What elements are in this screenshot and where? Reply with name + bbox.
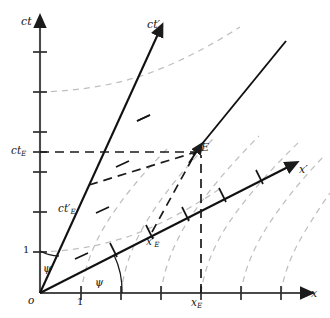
hyperbola-spacelike-s6 xyxy=(281,193,330,293)
ct_prime_E-projection-line xyxy=(89,152,196,185)
hyperbola-spacelike-s5 xyxy=(241,156,324,293)
x-prime-axis-line xyxy=(40,167,288,293)
ct-E-subscript: E xyxy=(21,149,26,158)
x-E-subscript: E xyxy=(197,301,202,310)
ct-prime-tick-1 xyxy=(75,253,88,259)
ct-axis-label: ct xyxy=(21,16,32,27)
ct-prime-axis-label: ct′ xyxy=(147,19,160,30)
x-prime-E-label: x′E xyxy=(146,236,160,248)
hyperbola-spacelike-s3 xyxy=(161,136,259,293)
x-unit-1-label: 1 xyxy=(77,297,83,307)
minkowski-diagram-figure: ct x ct′ x′ o E ctE xE ct′E x′E ψ ψ 1 1 xyxy=(0,0,330,318)
ct-prime-E-base: ct′ xyxy=(58,202,70,214)
primed-axes xyxy=(40,34,288,293)
ct-prime-tick-5 xyxy=(137,115,150,121)
ct-prime-E-subscript: E xyxy=(70,207,75,216)
ct-E-label: ctE xyxy=(11,145,26,157)
ct-prime-tick-2 xyxy=(96,207,109,213)
ct-E-base: ct xyxy=(11,144,21,156)
ct-prime-axis-line xyxy=(40,34,158,293)
hyperbola-spacelike-s4 xyxy=(201,142,299,293)
x-prime-ticks xyxy=(110,170,263,257)
hyperbola-group xyxy=(40,27,330,293)
x-prime-E-subscript: E xyxy=(154,240,159,249)
ct-prime-E-label: ct′E xyxy=(58,203,76,215)
light-cone-line-through-E xyxy=(193,41,286,155)
hyperbola-timelike-s1 xyxy=(40,188,221,252)
unprimed-axis-ticks xyxy=(33,52,281,300)
event-E-label: E xyxy=(201,142,209,153)
x-axis-label: x xyxy=(311,288,317,299)
psi-arc-upper xyxy=(40,251,59,256)
ct-unit-1-label: 1 xyxy=(23,245,29,255)
psi-angle-upper-label: ψ xyxy=(43,263,51,274)
x-prime-axis-label: x′ xyxy=(299,164,308,175)
hyperbola-timelike-s4 xyxy=(40,27,240,92)
origin-label: o xyxy=(28,295,34,306)
ct-prime-tick-3 xyxy=(116,161,129,167)
psi-angle-lower-label: ψ xyxy=(95,277,103,288)
ct-prime-ticks xyxy=(75,115,150,259)
unprimed-axes xyxy=(40,26,302,293)
x-E-label: xE xyxy=(191,297,202,309)
